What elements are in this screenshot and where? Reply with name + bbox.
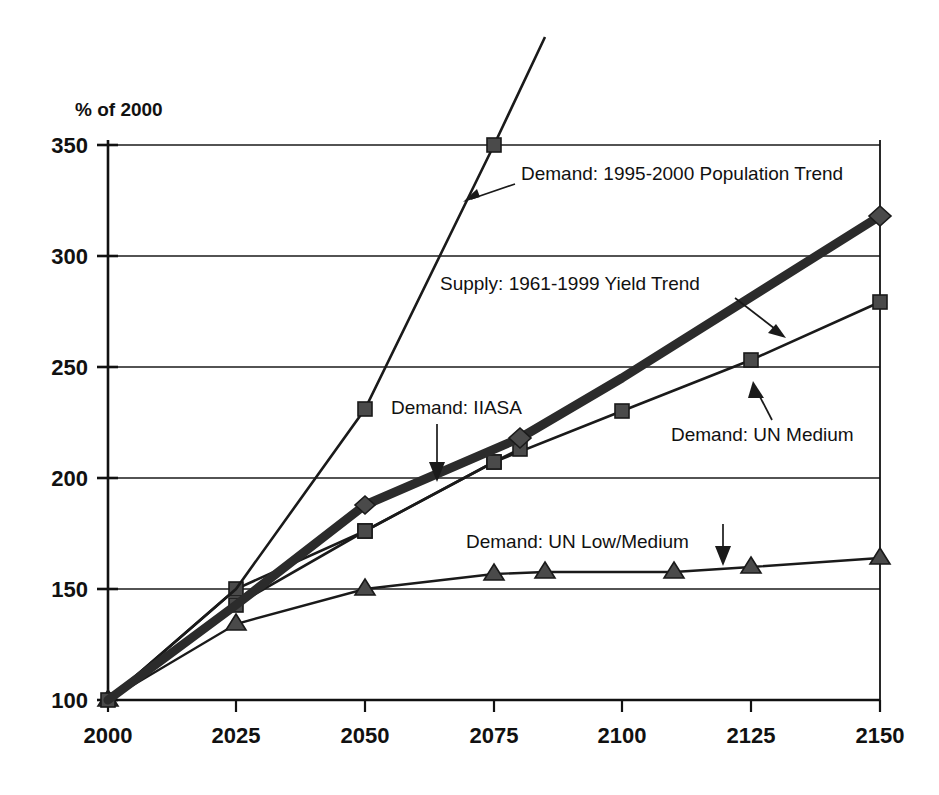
annotation-label-un-low-medium: Demand: UN Low/Medium (466, 531, 689, 552)
y-tick-label-100: 100 (51, 688, 88, 713)
marker-square (487, 455, 501, 469)
annotation-label-population-trend: Demand: 1995-2000 Population Trend (521, 163, 843, 184)
chart-container: % of 2000 350 300 250 200 150 100 2000 2… (0, 0, 939, 795)
x-tick-label-2100: 2100 (598, 723, 647, 748)
x-tick-label-2025: 2025 (212, 723, 261, 748)
y-tick-label-350: 350 (51, 133, 88, 158)
x-tick-label-2050: 2050 (341, 723, 390, 748)
annotation-label-supply-yield: Supply: 1961-1999 Yield Trend (440, 273, 700, 294)
marker-square (487, 138, 501, 152)
x-tick-label-2000: 2000 (84, 723, 133, 748)
line-chart: % of 2000 350 300 250 200 150 100 2000 2… (0, 0, 939, 795)
y-axis-title: % of 2000 (75, 99, 163, 120)
marker-square (873, 295, 887, 309)
y-tick-label-250: 250 (51, 355, 88, 380)
marker-square (358, 524, 372, 538)
y-tick-label-300: 300 (51, 244, 88, 269)
annotation-label-iiasa: Demand: IIASA (391, 397, 522, 418)
marker-square (358, 402, 372, 416)
y-tick-label-150: 150 (51, 577, 88, 602)
x-tick-label-2150: 2150 (856, 723, 905, 748)
y-tick-label-200: 200 (51, 466, 88, 491)
x-tick-label-2075: 2075 (470, 723, 519, 748)
annotation-label-un-medium: Demand: UN Medium (671, 424, 854, 445)
x-tick-label-2125: 2125 (727, 723, 776, 748)
marker-square (744, 353, 758, 367)
marker-square (615, 404, 629, 418)
